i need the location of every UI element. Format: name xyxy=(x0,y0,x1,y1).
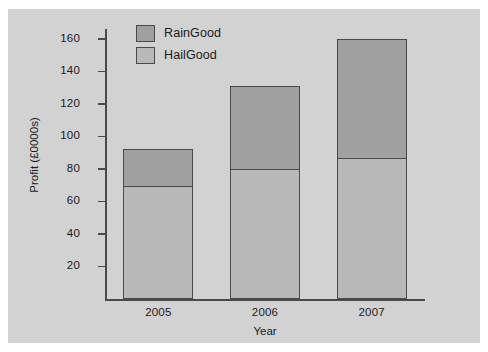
y-tick-label: 20 xyxy=(34,260,80,272)
y-tick-mark xyxy=(98,103,105,105)
bar-segment-hailgood xyxy=(230,169,300,299)
y-tick-mark xyxy=(98,266,105,268)
bar-segment-raingood xyxy=(123,149,193,186)
y-tick-label: 40 xyxy=(34,228,80,240)
y-tick-mark xyxy=(98,233,105,235)
y-tick-mark xyxy=(98,71,105,73)
legend-label: RainGood xyxy=(164,27,221,40)
chart-legend: RainGoodHailGood xyxy=(136,25,221,64)
y-tick-label: 60 xyxy=(34,195,80,207)
y-axis-line xyxy=(105,29,107,300)
legend-label: HailGood xyxy=(164,49,217,62)
legend-item: HailGood xyxy=(136,47,221,64)
figure-panel: 20406080100120140160 200520062007 Profit… xyxy=(8,9,480,343)
y-tick-mark xyxy=(98,38,105,40)
y-tick-label: 160 xyxy=(34,33,80,45)
legend-item: RainGood xyxy=(136,25,221,42)
bar-segment-raingood xyxy=(337,39,407,159)
y-tick-mark xyxy=(98,136,105,138)
y-axis-title: Profit (£0000s) xyxy=(28,65,40,245)
bar-segment-hailgood xyxy=(123,185,193,299)
x-tick-label: 2006 xyxy=(225,306,305,318)
x-axis-title: Year xyxy=(105,325,425,337)
bar-segment-hailgood xyxy=(337,157,407,299)
y-tick-mark xyxy=(98,168,105,170)
y-tick-label: 120 xyxy=(34,98,80,110)
chart-screenshot: 20406080100120140160 200520062007 Profit… xyxy=(0,0,488,352)
y-tick-mark xyxy=(98,201,105,203)
y-tick-label: 80 xyxy=(34,163,80,175)
legend-swatch xyxy=(136,25,155,42)
x-tick-label: 2005 xyxy=(118,306,198,318)
plot-area: 20406080100120140160 200520062007 Profit… xyxy=(8,9,480,343)
bar-segment-raingood xyxy=(230,86,300,170)
y-tick-label: 100 xyxy=(34,130,80,142)
legend-swatch xyxy=(136,47,155,64)
x-tick-label: 2007 xyxy=(332,306,412,318)
x-axis-line xyxy=(105,299,425,301)
y-tick-label: 140 xyxy=(34,65,80,77)
